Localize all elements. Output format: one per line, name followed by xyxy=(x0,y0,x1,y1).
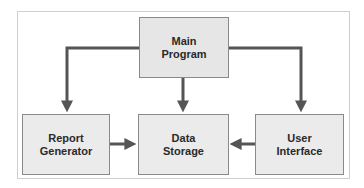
node-label-line: Main xyxy=(161,35,206,48)
node-label-line: User xyxy=(277,132,323,145)
node-main-program: Main Program xyxy=(139,17,229,78)
node-label-line: Data xyxy=(163,132,204,145)
node-label-line: Interface xyxy=(277,145,323,158)
node-user-interface: User Interface xyxy=(255,114,344,175)
edge-main-to-user xyxy=(228,48,301,107)
node-data-storage: Data Storage xyxy=(138,114,229,175)
node-label: Main Program xyxy=(161,35,206,61)
node-label: Data Storage xyxy=(163,132,204,158)
node-label-line: Generator xyxy=(40,145,93,158)
node-label: User Interface xyxy=(277,132,323,158)
node-label-line: Report xyxy=(40,132,93,145)
node-label-line: Program xyxy=(161,48,206,61)
node-report-generator: Report Generator xyxy=(22,114,110,175)
node-label: Report Generator xyxy=(40,132,93,158)
edge-main-to-report xyxy=(67,48,139,107)
node-label-line: Storage xyxy=(163,145,204,158)
